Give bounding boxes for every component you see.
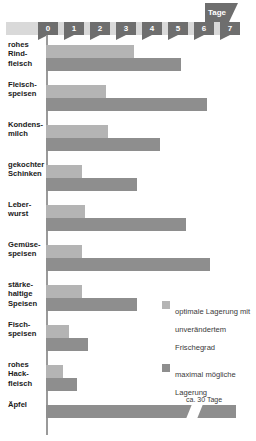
category-label-line: speisen	[8, 89, 44, 98]
category-label-line: Schinken	[8, 169, 44, 178]
category-label-line: Kondens-	[8, 120, 44, 129]
bar-group	[46, 285, 137, 311]
optimal-swatch	[162, 301, 170, 309]
bar-maximum	[46, 378, 77, 391]
category-label-line: Fleisch-	[8, 80, 44, 89]
axis-tick-label: 6	[202, 24, 206, 33]
unit-label-badge: Tage	[205, 3, 229, 22]
bar-group	[46, 205, 186, 231]
bar-optimal	[46, 245, 82, 258]
bar-group	[46, 125, 160, 151]
category-label-line: Äpfel	[8, 400, 44, 409]
category-label-8: rohesHack-fleisch	[8, 360, 44, 388]
axis-tick-3: 3	[116, 22, 136, 35]
unit-label-text: Tage	[208, 8, 226, 17]
bar-maximum	[46, 138, 160, 151]
badge-corner-shape	[229, 3, 238, 22]
axis-tick-label: 7	[228, 24, 232, 33]
bar-optimal	[46, 85, 106, 98]
bar-optimal	[46, 125, 108, 138]
legend-item-0: optimale Lagerung mit unverändertem Fris…	[162, 300, 254, 354]
category-label-7: Fisch-speisen	[8, 320, 44, 339]
category-label-line: fleisch	[8, 59, 44, 68]
category-label-6: stärke-haltigeSpeisen	[8, 280, 44, 308]
bar-group	[46, 85, 207, 111]
category-label-line: Speisen	[8, 299, 44, 308]
category-label-line: rohes	[8, 360, 44, 369]
category-label-line: speisen	[8, 329, 44, 338]
bar-optimal	[46, 205, 85, 218]
axis-tick-label: 1	[72, 24, 76, 33]
category-label-5: Gemüse-speisen	[8, 240, 44, 259]
axis-tick-6: 6	[194, 22, 214, 35]
bar-group	[46, 245, 210, 271]
category-label-line: Fisch-	[8, 320, 44, 329]
category-label-3: gekochterSchinken	[8, 160, 44, 179]
category-label-line: Rind-	[8, 49, 44, 58]
category-label-line: haltige	[8, 289, 44, 298]
chart-legend: optimale Lagerung mit unverändertem Fris…	[162, 300, 254, 408]
bar-maximum	[46, 298, 137, 311]
bar-row: Kondens-milch	[0, 120, 256, 160]
bar-row: Fleisch-speisen	[0, 80, 256, 120]
axis-tick-label: 4	[150, 24, 154, 33]
bar-maximum	[46, 338, 88, 351]
maximum-swatch	[162, 364, 170, 372]
storage-duration-chart: 01234567 Tage rohesRind-fleischFleisch-s…	[0, 0, 256, 441]
category-label-line: gekochter	[8, 160, 44, 169]
legend-item-1: maximal mögliche Lagerung	[162, 363, 254, 399]
category-label-line: Leber-	[8, 200, 44, 209]
axis-tick-1: 1	[64, 22, 84, 35]
bar-optimal	[46, 325, 69, 338]
bar-row: gekochterSchinken	[0, 160, 256, 200]
category-label-line: speisen	[8, 249, 44, 258]
category-label-line: fleisch	[8, 379, 44, 388]
legend-label: optimale Lagerung mit unverändertem Fris…	[175, 307, 250, 352]
bar-maximum	[46, 98, 207, 111]
category-label-line: milch	[8, 129, 44, 138]
axis-tick-2: 2	[90, 22, 110, 35]
axis-tick-0: 0	[38, 22, 58, 35]
bar-group	[46, 45, 181, 71]
category-label-1: Fleisch-speisen	[8, 80, 44, 99]
bar-optimal	[46, 285, 82, 298]
bar-row: Leber-wurst	[0, 200, 256, 240]
axis-tick-label: 0	[46, 24, 50, 33]
axis-tick-label: 2	[98, 24, 102, 33]
category-label-line: Hack-	[8, 369, 44, 378]
axis-tick-label: 5	[176, 24, 180, 33]
bar-maximum	[46, 218, 186, 231]
legend-label: maximal mögliche Lagerung	[175, 370, 236, 397]
bar-row: Gemüse-speisen	[0, 240, 256, 280]
bar-group	[46, 165, 137, 191]
axis-tick-4: 4	[142, 22, 162, 35]
category-label-9: Äpfel	[8, 400, 44, 409]
bar-optimal	[46, 365, 63, 378]
category-label-line: stärke-	[8, 280, 44, 289]
category-label-line: rohes	[8, 40, 44, 49]
bar-maximum	[46, 258, 210, 271]
category-label-0: rohesRind-fleisch	[8, 40, 44, 68]
axis-tick-7: 7	[220, 22, 240, 35]
bar-group	[46, 325, 88, 351]
category-label-line: wurst	[8, 209, 44, 218]
apfel-note: ca. 30 Tage	[186, 396, 222, 403]
axis-tick-5: 5	[168, 22, 188, 35]
category-label-line: Gemüse-	[8, 240, 44, 249]
bar-row: rohesRind-fleisch	[0, 40, 256, 80]
category-label-2: Kondens-milch	[8, 120, 44, 139]
bar-maximum	[46, 58, 181, 71]
bar-optimal	[46, 45, 134, 58]
category-label-4: Leber-wurst	[8, 200, 44, 219]
bar-optimal	[46, 165, 82, 178]
bar-maximum	[46, 178, 137, 191]
axis-tick-label: 3	[124, 24, 128, 33]
bar-group	[46, 365, 77, 391]
